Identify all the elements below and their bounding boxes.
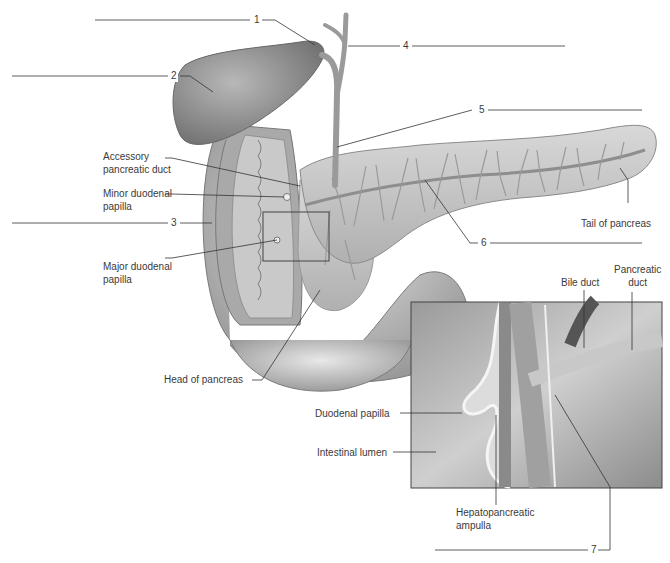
duodenal-papilla-label: Duodenal papilla — [315, 407, 390, 420]
inset-view — [411, 300, 662, 488]
minor-duodenal-papilla-label: Minor duodenal papilla — [103, 187, 172, 213]
label-number-1: 1 — [253, 14, 261, 26]
label-number-4: 4 — [402, 40, 410, 52]
head-of-pancreas-label: Head of pancreas — [164, 373, 243, 386]
major-duodenal-papilla-label: Major duodenal papilla — [103, 260, 172, 286]
bile-duct-label: Bile duct — [561, 276, 599, 289]
label-number-6: 6 — [480, 237, 488, 249]
label-number-7: 7 — [590, 544, 598, 556]
tail-of-pancreas-label: Tail of pancreas — [581, 217, 651, 230]
accessory-pancreatic-duct-label: Accessory pancreatic duct — [103, 150, 171, 176]
label-number-2: 2 — [170, 70, 178, 82]
label-number-3: 3 — [170, 217, 178, 229]
label-number-5: 5 — [478, 104, 486, 116]
pancreas — [300, 125, 656, 280]
pancreatic-duct-label: Pancreatic duct — [614, 263, 661, 289]
intestinal-lumen-label: Intestinal lumen — [317, 446, 387, 459]
hepatopancreatic-ampulla-label: Hepatopancreatic ampulla — [456, 506, 534, 532]
